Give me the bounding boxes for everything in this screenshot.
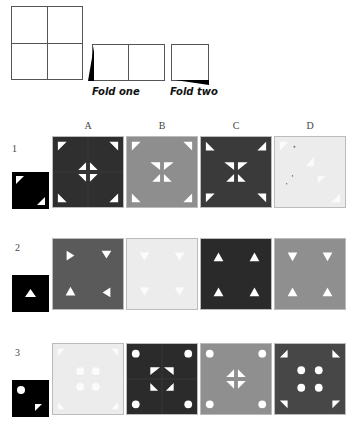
column-header-c: C — [200, 120, 272, 131]
answer-option-3d[interactable] — [274, 343, 346, 415]
column-header-d: D — [274, 120, 346, 131]
row-number-1: 1 — [12, 143, 17, 154]
answer-option-1a[interactable] — [52, 136, 124, 208]
fold-two-paper — [171, 44, 209, 81]
answer-option-1c[interactable] — [200, 136, 272, 208]
answer-option-1d[interactable] — [274, 136, 346, 208]
folded-pattern-2 — [12, 275, 49, 312]
fold-two-flap-icon — [175, 80, 209, 85]
folded-pattern-1 — [12, 172, 49, 209]
answer-option-3c[interactable] — [200, 343, 272, 415]
column-header-b: B — [126, 120, 198, 131]
column-header-a: A — [52, 120, 124, 131]
answer-option-1b[interactable] — [126, 136, 198, 208]
answer-option-2d[interactable] — [274, 238, 346, 310]
answer-option-2a[interactable] — [52, 238, 124, 310]
answer-option-2b[interactable] — [126, 238, 198, 310]
answer-option-2c[interactable] — [200, 238, 272, 310]
row-number-3: 3 — [15, 347, 20, 358]
answer-option-3a[interactable] — [52, 343, 124, 415]
folded-pattern-3 — [12, 380, 49, 417]
fold-two-label: Fold two — [170, 86, 218, 97]
fold-one-flap-icon — [88, 46, 94, 81]
answer-option-3b[interactable] — [126, 343, 198, 415]
unfolded-paper — [11, 6, 83, 80]
row-number-2: 2 — [15, 242, 20, 253]
fold-one-paper — [92, 44, 165, 81]
fold-one-label: Fold one — [92, 86, 140, 97]
